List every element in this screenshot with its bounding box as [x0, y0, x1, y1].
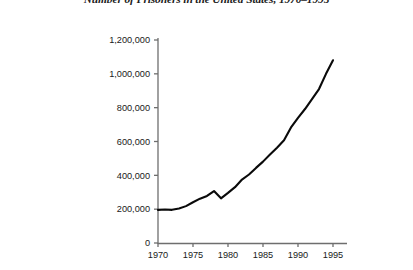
y-axis-tick-label: 800,000 — [117, 103, 150, 113]
x-axis-tick-label: 1970 — [148, 250, 168, 260]
line-chart-plot: 0200,000400,000600,000800,0001,000,0001,… — [0, 0, 413, 270]
y-axis-tick-label: 400,000 — [117, 171, 150, 181]
chart-figure: Number of Prisoners in the United States… — [0, 0, 413, 270]
y-axis-tick-label: 1,000,000 — [109, 69, 150, 79]
x-axis: 197019751980198519901995 — [148, 243, 347, 260]
x-axis-tick-label: 1975 — [183, 250, 203, 260]
x-axis-tick-label: 1990 — [288, 250, 308, 260]
y-axis-tick-label: 0 — [145, 238, 150, 248]
prisoners-data-line — [158, 60, 333, 210]
y-axis: 0200,000400,000600,000800,0001,000,0001,… — [109, 35, 158, 248]
x-axis-tick-label: 1985 — [253, 250, 273, 260]
x-axis-tick-labels: 197019751980198519901995 — [148, 250, 343, 260]
x-axis-tick-label: 1980 — [218, 250, 238, 260]
x-axis-tick-label: 1995 — [323, 250, 343, 260]
y-axis-tick-label: 1,200,000 — [109, 35, 150, 45]
y-axis-tick-label: 200,000 — [117, 204, 150, 214]
y-axis-tick-labels: 0200,000400,000600,000800,0001,000,0001,… — [109, 35, 150, 248]
y-axis-tick-label: 600,000 — [117, 137, 150, 147]
